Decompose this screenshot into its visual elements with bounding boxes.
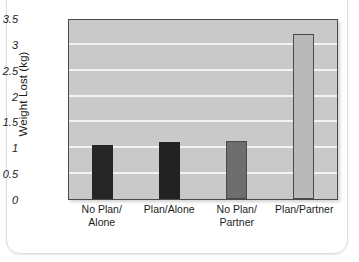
y-tick-label: 0 (0, 194, 18, 206)
x-tick-label: Plan/Partner (271, 203, 339, 228)
x-tick-label-line: Alone (68, 216, 136, 229)
bar-slot (270, 20, 337, 199)
plot-area (68, 19, 338, 200)
bar (159, 142, 180, 199)
x-tick-label: Plan/Alone (136, 203, 204, 228)
x-tick-label: No Plan/Partner (203, 203, 271, 228)
bar-slot (136, 20, 203, 199)
y-axis-title: Weight Lost (kg) (17, 29, 29, 159)
x-tick-label-line: No Plan/ (203, 203, 271, 216)
x-tick-label-line: No Plan/ (68, 203, 136, 216)
x-tick-label-line: Partner (203, 216, 271, 229)
bar (226, 141, 247, 199)
bar (92, 145, 113, 199)
bar-series (69, 20, 337, 199)
y-tick-label: 2.5 (0, 65, 18, 77)
x-tick-label-line: Plan/Partner (271, 203, 339, 216)
y-tick-label: 1 (0, 142, 18, 154)
y-tick-label: 3.5 (0, 13, 18, 25)
bar-chart-figure: Weight Lost (kg) No Plan/AlonePlan/Alone… (0, 0, 359, 262)
bar-slot (203, 20, 270, 199)
bar (293, 34, 314, 199)
x-tick-label: No Plan/Alone (68, 203, 136, 228)
y-tick-label: 1.5 (0, 116, 18, 128)
y-tick-label: 2 (0, 91, 18, 103)
x-axis-tick-labels: No Plan/AlonePlan/AloneNo Plan/PartnerPl… (68, 203, 338, 228)
bar-slot (69, 20, 136, 199)
x-tick-label-line: Plan/Alone (136, 203, 204, 216)
y-tick-label: 3 (0, 39, 18, 51)
y-tick-label: 0.5 (0, 168, 18, 180)
